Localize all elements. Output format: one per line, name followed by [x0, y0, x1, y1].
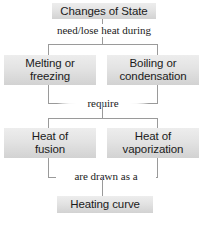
node-heat-of-fusion[interactable]: Heat of fusion	[4, 128, 96, 158]
edge-label-need-lose-heat-during: need/lose heat during	[32, 24, 176, 36]
node-melting-or-freezing-label: Melting or freezing	[25, 57, 75, 83]
connector-left-result-down	[48, 158, 49, 177]
node-heat-of-vaporization[interactable]: Heat of vaporization	[107, 128, 199, 158]
connector-drop-left-result	[48, 118, 49, 128]
node-heating-curve-label: Heating curve	[70, 198, 140, 211]
connector-split-results	[48, 118, 158, 119]
node-heat-of-fusion-label: Heat of fusion	[32, 130, 68, 156]
connector-left-branch-down	[48, 85, 49, 103]
connector-split-branches	[48, 44, 158, 45]
connector-require-down	[102, 103, 103, 118]
connector-drop-left-branch	[48, 44, 49, 55]
flowchart-diagram: Changes of State need/lose heat during M…	[0, 0, 202, 225]
node-heating-curve[interactable]: Heating curve	[57, 196, 153, 213]
node-melting-or-freezing[interactable]: Melting or freezing	[4, 55, 96, 85]
node-boiling-or-condensation-label: Boiling or condensation	[119, 57, 186, 83]
node-changes-of-state-label: Changes of State	[60, 5, 147, 18]
edge-label-are-drawn-as-a: are drawn as a	[56, 170, 156, 182]
node-changes-of-state[interactable]: Changes of State	[52, 3, 156, 19]
connector-right-branch-down	[157, 85, 158, 103]
node-heat-of-vaporization-label: Heat of vaporization	[123, 130, 184, 156]
connector-drop-right-result	[157, 118, 158, 128]
edge-label-require: require	[57, 95, 149, 112]
connector-right-result-down	[157, 158, 158, 177]
connector-final-down	[102, 177, 103, 196]
connector-drop-right-branch	[157, 44, 158, 55]
node-boiling-or-condensation[interactable]: Boiling or condensation	[107, 55, 199, 85]
